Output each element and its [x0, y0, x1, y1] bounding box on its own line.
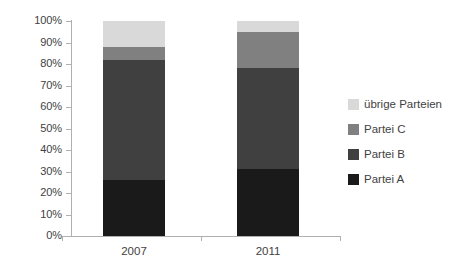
y-axis-tick-label: 40%: [0, 144, 62, 155]
y-axis-tick-label: 50%: [0, 123, 62, 134]
x-axis-tick: [62, 236, 63, 241]
y-axis-tick-text: 20%: [0, 187, 62, 198]
y-axis-tick-text: 70%: [0, 80, 62, 91]
bar-segment: [103, 47, 165, 60]
y-axis-tick-text: 0%: [0, 230, 62, 241]
legend-swatch-icon: [348, 124, 359, 135]
bar-segment: [103, 60, 165, 180]
legend-item[interactable]: Partei A: [348, 167, 468, 192]
legend-label: Partei B: [364, 148, 405, 161]
legend-item[interactable]: übrige Parteien: [348, 92, 468, 117]
y-axis-tick-label: 30%: [0, 166, 62, 177]
bar-segment: [237, 169, 299, 236]
y-axis-tick-text: 100%: [0, 15, 62, 26]
x-axis-label-2011: 2011: [223, 245, 313, 258]
legend-item[interactable]: Partei C: [348, 117, 468, 142]
legend-swatch-icon: [348, 149, 359, 160]
legend-swatch-icon: [348, 174, 359, 185]
legend-label: Partei A: [364, 173, 404, 186]
y-axis-tick-text: 10%: [0, 209, 62, 220]
y-axis-tick-text: 50%: [0, 123, 62, 134]
y-axis-tick-text: 40%: [0, 144, 62, 155]
y-axis-tick-label: 100%: [0, 15, 62, 26]
bar-2011: [237, 21, 299, 236]
legend-label: übrige Parteien: [364, 98, 442, 111]
y-axis-tick-label: 0%: [0, 230, 62, 241]
legend-item[interactable]: Partei B: [348, 142, 468, 167]
y-axis-tick-text: 60%: [0, 101, 62, 112]
legend-label: Partei C: [364, 123, 406, 136]
y-axis-tick-label: 20%: [0, 187, 62, 198]
y-axis-tick-label: 70%: [0, 80, 62, 91]
y-axis-tick: [66, 236, 72, 237]
y-axis-tick-text: 30%: [0, 166, 62, 177]
plot-area: [72, 21, 330, 236]
stacked-bar-chart: 0%10%20%30%40%50%60%70%80%90%100% 200720…: [0, 0, 472, 268]
legend-swatch-icon: [348, 99, 359, 110]
chart-legend: übrige ParteienPartei CPartei BPartei A: [348, 92, 468, 192]
bar-segment: [237, 68, 299, 169]
x-axis-label-2007: 2007: [89, 245, 179, 258]
bar-segment: [237, 21, 299, 32]
y-axis-tick-label: 60%: [0, 101, 62, 112]
y-axis-tick-label: 90%: [0, 37, 62, 48]
bar-segment: [103, 21, 165, 47]
bar-2007: [103, 21, 165, 236]
y-axis-tick-label: 80%: [0, 58, 62, 69]
bar-segment: [237, 32, 299, 69]
y-axis-tick-text: 90%: [0, 37, 62, 48]
x-axis-tick: [201, 236, 202, 241]
y-axis-tick-text: 80%: [0, 58, 62, 69]
y-axis-tick-label: 10%: [0, 209, 62, 220]
bar-segment: [103, 180, 165, 236]
x-axis-tick: [340, 236, 341, 241]
